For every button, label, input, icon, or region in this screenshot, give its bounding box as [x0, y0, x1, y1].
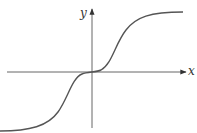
x-axis-label: x: [188, 65, 195, 77]
y-axis-label: y: [80, 7, 87, 19]
sigmoid-curve: [0, 12, 183, 131]
function-graph: [0, 0, 197, 133]
